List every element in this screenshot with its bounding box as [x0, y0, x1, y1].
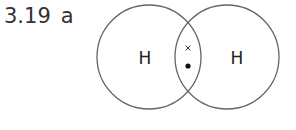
cross-electron-icon [186, 46, 191, 51]
atom-shell-right [175, 5, 279, 109]
h2-bond-diagram: H H [0, 0, 296, 130]
atom-symbol-right: H [231, 48, 244, 68]
dot-electron-icon [185, 63, 190, 68]
atom-symbol-left: H [139, 48, 152, 68]
